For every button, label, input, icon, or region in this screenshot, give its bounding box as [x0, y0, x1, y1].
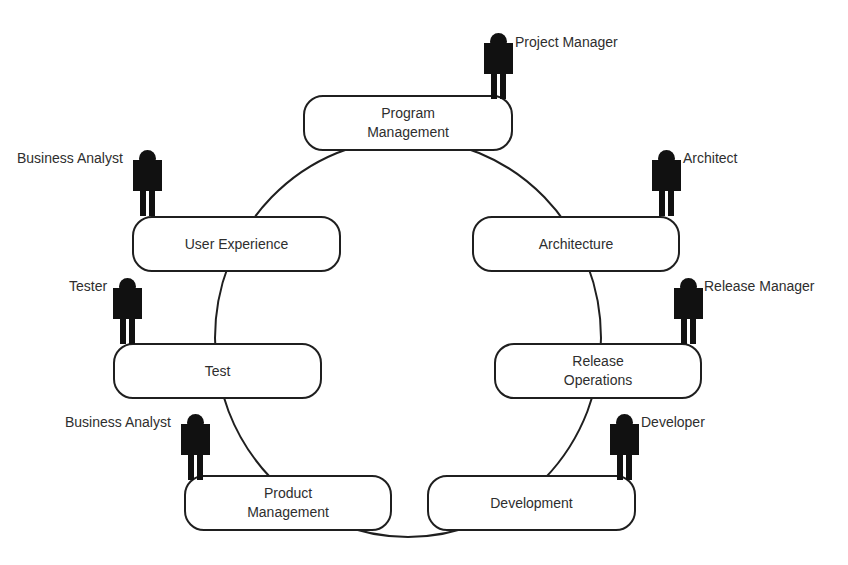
stage-label: Development [490, 494, 573, 513]
person-icon [113, 278, 143, 344]
person-icon [674, 278, 704, 344]
person-icon [610, 414, 640, 480]
stage-label: User Experience [185, 235, 289, 254]
role-label-business-analyst: Business Analyst [65, 414, 171, 430]
role-label-project-manager: Project Manager [515, 34, 618, 50]
stage-architecture: Architecture [472, 216, 680, 272]
stage-product-management: Product Management [184, 475, 392, 531]
stage-label-line1: Product [247, 484, 329, 503]
stage-label: Architecture [539, 235, 614, 254]
stage-label-line2: Operations [564, 371, 632, 390]
stage-label: Test [205, 362, 231, 381]
person-icon [181, 414, 211, 480]
stage-program-management: Program Management [303, 95, 513, 151]
person-icon [484, 33, 514, 99]
stage-user-experience: User Experience [132, 216, 341, 272]
role-label-architect: Architect [683, 150, 737, 166]
stage-label-line1: Program [367, 104, 449, 123]
role-cycle-diagram: Program Management Project Manager User … [0, 0, 848, 565]
stage-label-line2: Management [247, 503, 329, 522]
person-icon [652, 150, 682, 216]
role-label-release-manager: Release Manager [704, 278, 815, 294]
stage-label-line1: Release [564, 352, 632, 371]
person-icon [133, 150, 163, 216]
stage-label-line2: Management [367, 123, 449, 142]
role-label-tester: Tester [69, 278, 107, 294]
stage-development: Development [427, 475, 636, 531]
role-label-business-analyst: Business Analyst [17, 150, 123, 166]
role-label-developer: Developer [641, 414, 705, 430]
stage-test: Test [113, 343, 322, 399]
stage-release-operations: Release Operations [494, 343, 702, 399]
